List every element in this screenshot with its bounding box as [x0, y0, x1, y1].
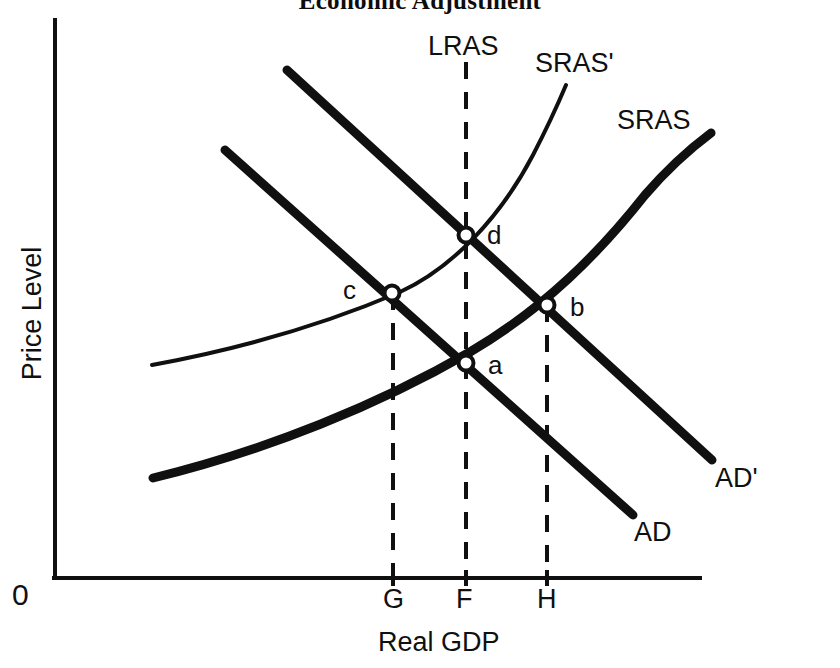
lras-curve-label: LRAS [428, 33, 499, 60]
economic-adjustment-figure: Economic Adjustment [0, 0, 840, 668]
ad-curve-label: AD [634, 519, 672, 546]
equilibrium-point-b[interactable] [540, 298, 555, 313]
sras-prime-curve-label: SRAS' [535, 50, 614, 77]
sras-curve[interactable] [153, 133, 711, 478]
equilibrium-label-c: c [343, 277, 356, 303]
x-axis-title: Real GDP [378, 629, 500, 656]
equilibrium-label-b: b [570, 294, 584, 320]
y-axis-title: Price Level [19, 219, 46, 409]
sras-prime-curve[interactable] [152, 85, 566, 365]
origin-label: 0 [12, 580, 29, 610]
equilibrium-label-d: d [487, 222, 501, 248]
chart-canvas [0, 0, 840, 668]
equilibrium-point-c[interactable] [385, 286, 400, 301]
x-tick-label-g: G [383, 586, 404, 613]
equilibrium-point-d[interactable] [459, 228, 474, 243]
ad-prime-curve-label: AD' [715, 465, 758, 492]
x-tick-label-f: F [456, 586, 473, 613]
x-tick-label-h: H [537, 586, 557, 613]
sras-curve-label: SRAS [617, 107, 691, 134]
equilibrium-label-a: a [488, 352, 502, 378]
axes-group [54, 20, 700, 578]
equilibrium-point-a[interactable] [459, 356, 474, 371]
